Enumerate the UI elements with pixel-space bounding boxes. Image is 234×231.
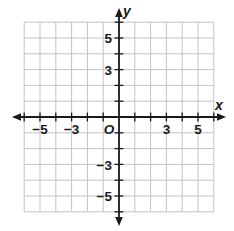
coordinate-plane-figure: y x O −5 −3 3 5 5 3 −3 −5 [0, 0, 234, 231]
x-tick-label-neg5: −5 [32, 122, 48, 137]
y-axis-top-arrowhead-icon [115, 8, 123, 17]
origin-label: O [104, 122, 115, 137]
y-tick-label-5: 5 [104, 31, 112, 46]
y-axis-label: y [122, 3, 132, 19]
y-tick-label-neg5: −5 [97, 189, 113, 204]
y-axis-bottom-arrowhead-icon [115, 217, 123, 226]
coordinate-plane-canvas: y x O −5 −3 3 5 5 3 −3 −5 [0, 0, 234, 231]
x-tick-label-neg3: −3 [64, 122, 80, 137]
y-tick-label-3: 3 [104, 63, 112, 78]
x-axis-label: x [214, 97, 224, 113]
x-tick-label-3: 3 [163, 122, 171, 137]
x-axis-left-arrowhead-icon [12, 113, 21, 121]
y-tick-label-neg3: −3 [97, 158, 113, 173]
x-axis-right-arrowhead-icon [217, 113, 226, 121]
x-tick-label-5: 5 [194, 122, 202, 137]
